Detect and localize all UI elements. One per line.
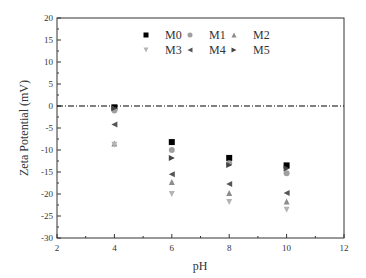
triangle-down-marker	[284, 207, 290, 213]
data-points	[111, 104, 289, 213]
legend-item-m1: M1	[188, 28, 226, 42]
triangle-up-marker	[232, 33, 237, 38]
x-tick-label: 2	[55, 243, 60, 253]
triangle-down-marker	[169, 191, 175, 197]
legend-label: M2	[253, 28, 270, 42]
triangle-down-marker	[226, 199, 232, 205]
x-axis-title: pH	[193, 259, 208, 273]
series-m3	[111, 142, 289, 213]
circle-marker	[284, 170, 290, 176]
series-m0	[111, 104, 289, 168]
legend-label: M0	[165, 28, 182, 42]
x-tick-label: 12	[340, 243, 349, 253]
triangle-up-marker	[169, 179, 175, 185]
legend-label: M3	[165, 43, 182, 57]
x-tick-label: 6	[170, 243, 175, 253]
triangle-left-marker	[111, 121, 117, 127]
y-tick-label: -15	[41, 167, 53, 177]
y-tick-label: -25	[41, 211, 53, 221]
y-tick-label: -5	[46, 123, 54, 133]
triangle-right-marker	[169, 155, 175, 161]
circle-marker	[169, 147, 175, 153]
square-marker	[169, 139, 175, 145]
triangle-left-marker	[226, 181, 232, 187]
square-marker	[226, 155, 232, 161]
series-m5	[111, 105, 289, 171]
y-tick-label: 0	[49, 101, 54, 111]
triangle-left-marker	[169, 171, 175, 177]
series-m2	[111, 140, 289, 204]
x-tick-label: 8	[227, 243, 232, 253]
y-tick-label: 5	[49, 79, 54, 89]
y-tick-label: 15	[44, 35, 54, 45]
axes: 24681012-30-25-20-15-10-505101520	[41, 13, 349, 253]
triangle-up-marker	[284, 198, 290, 204]
legend-item-m4: M4	[188, 43, 226, 57]
triangle-left-marker	[188, 48, 193, 53]
triangle-right-marker	[232, 48, 237, 53]
y-tick-label: -30	[41, 233, 53, 243]
y-tick-label: 10	[44, 57, 54, 67]
x-tick-label: 10	[282, 243, 292, 253]
legend: M0M1M2M3M4M5	[144, 28, 270, 57]
triangle-up-marker	[226, 190, 232, 196]
plot-frame	[57, 18, 344, 238]
triangle-left-marker	[284, 190, 290, 196]
y-tick-label: 20	[44, 13, 54, 23]
legend-label: M1	[209, 28, 226, 42]
y-tick-label: -20	[41, 189, 53, 199]
legend-item-m2: M2	[232, 28, 270, 42]
legend-item-m5: M5	[232, 43, 270, 57]
legend-label: M5	[253, 43, 270, 57]
y-axis-title: Zeta Potential (mV)	[17, 80, 31, 176]
square-marker	[144, 33, 149, 38]
legend-label: M4	[209, 43, 226, 57]
y-tick-label: -10	[41, 145, 53, 155]
legend-item-m3: M3	[144, 43, 182, 57]
triangle-down-marker	[144, 48, 149, 53]
x-tick-label: 4	[112, 243, 117, 253]
zeta-potential-chart: 24681012-30-25-20-15-10-505101520 M0M1M2…	[0, 0, 366, 278]
series-m4	[111, 121, 289, 196]
circle-marker	[188, 33, 193, 38]
series-m1	[111, 107, 289, 176]
legend-item-m0: M0	[144, 28, 182, 42]
